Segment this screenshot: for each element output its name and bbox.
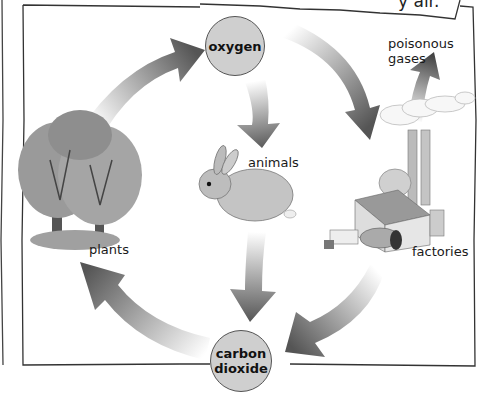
arrow-carbon-dioxide-to-plants <box>80 262 210 360</box>
label-poisonous-gases-line1: poisonous <box>388 36 454 51</box>
label-plants: plants <box>89 242 129 257</box>
arrow-oxygen-to-animals <box>237 78 280 148</box>
smoke-cloud-illustration <box>380 92 475 125</box>
label-poisonous-gases-line2: gases <box>388 51 426 66</box>
arrow-factories-to-carbon-dioxide <box>285 265 385 357</box>
node-carbon-dioxide: carbon dioxide <box>210 330 272 392</box>
node-carbon-dioxide-line2: dioxide <box>214 361 268 376</box>
adjacent-panel-border <box>1 0 3 365</box>
trees-illustration <box>18 110 142 250</box>
arrow-oxygen-to-factories <box>275 18 380 140</box>
factory-illustration <box>324 130 444 252</box>
arrow-animals-to-carbon-dioxide <box>230 232 276 322</box>
label-animals: animals <box>248 155 299 170</box>
node-carbon-dioxide-line1: carbon <box>216 346 266 361</box>
speech-bubble-text: y air. <box>398 0 439 11</box>
node-oxygen-label: oxygen <box>208 39 261 54</box>
node-oxygen: oxygen <box>205 16 265 76</box>
label-factories: factories <box>412 244 468 259</box>
